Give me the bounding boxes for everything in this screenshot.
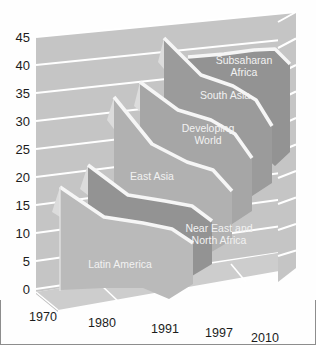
series-label-developing-world-line2: World: [194, 134, 221, 146]
figure-left-border: [0, 300, 1, 345]
ribbon-chart-3d: Subsaharan Africa South Asia Developing …: [0, 0, 316, 345]
series-label-near-east-line1: Near East and: [185, 222, 252, 234]
y-tick-0: 0: [23, 282, 30, 297]
y-tick-10: 10: [16, 226, 30, 241]
series-label-east-asia: East Asia: [130, 170, 174, 182]
x-tick-1991: 1991: [151, 322, 179, 336]
y-tick-40: 40: [16, 58, 30, 73]
y-tick-30: 30: [16, 114, 30, 129]
figure-right-border: [315, 300, 316, 345]
x-tick-2010: 2010: [251, 331, 279, 345]
y-tick-5: 5: [23, 254, 30, 269]
y-tick-25: 25: [16, 142, 30, 157]
series-label-latin-america: Latin America: [88, 258, 152, 270]
x-tick-1997: 1997: [205, 326, 233, 340]
series-label-south-asia: South Asia: [200, 89, 250, 101]
series-label-subsaharan-africa-line1: Subsaharan: [216, 54, 273, 66]
series-label-subsaharan-africa-line2: Africa: [231, 66, 258, 78]
y-tick-35: 35: [16, 86, 30, 101]
x-tick-1980: 1980: [88, 316, 116, 330]
chart-root: Subsaharan Africa South Asia Developing …: [0, 0, 316, 345]
y-tick-45: 45: [16, 30, 30, 45]
series-label-near-east-line2: North Africa: [192, 234, 247, 246]
series-label-developing-world-line1: Developing: [182, 122, 235, 134]
y-tick-20: 20: [16, 170, 30, 185]
y-axis: 45 40 35 30 25 20 15 10 5 0: [16, 30, 30, 297]
y-tick-15: 15: [16, 198, 30, 213]
x-axis: 1970 1980 1991 1997 2010: [29, 310, 279, 345]
x-tick-1970: 1970: [29, 310, 57, 324]
